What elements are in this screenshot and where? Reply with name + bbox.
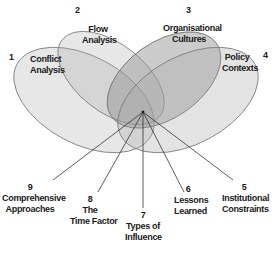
set-label-line: Policy bbox=[222, 52, 252, 63]
set-number-3: 3 bbox=[186, 5, 191, 15]
spoke-label-line: Constraints bbox=[222, 204, 266, 215]
set-number-2: 2 bbox=[75, 5, 80, 15]
spoke-number: 8 bbox=[70, 194, 110, 205]
spoke-label-5: 5 Institutional Constraints bbox=[222, 182, 266, 215]
spoke-label-line: The bbox=[70, 205, 110, 216]
spoke-number: 7 bbox=[125, 210, 161, 221]
spoke-number: 9 bbox=[2, 182, 58, 193]
set-number-4: 4 bbox=[263, 50, 268, 60]
set-label-line: Organisational bbox=[163, 23, 215, 34]
set-label-line: Analysis bbox=[82, 35, 114, 46]
spoke-label-line: Types of bbox=[125, 221, 161, 232]
set-label-line: Flow bbox=[82, 24, 114, 35]
spoke-number: 6 bbox=[174, 184, 202, 195]
spoke-number: 5 bbox=[222, 182, 266, 193]
spoke-label-line: Influence bbox=[125, 232, 161, 243]
spoke-label-line: Time Factor bbox=[70, 216, 110, 227]
spoke-label-6: 6 Lessons Learned bbox=[174, 184, 202, 217]
spoke-label-line: Learned bbox=[174, 206, 202, 217]
set-label-organisational-cultures: Organisational Cultures bbox=[163, 23, 215, 45]
set-label-line: Cultures bbox=[163, 34, 215, 45]
spoke-label-9: 9 Comprehensive Approaches bbox=[2, 182, 58, 215]
spoke-label-7: 7 Types of Influence bbox=[125, 210, 161, 243]
spoke-label-line: Comprehensive bbox=[2, 193, 58, 204]
spoke-label-8: 8 The Time Factor bbox=[70, 194, 110, 227]
spoke-label-line: Approaches bbox=[2, 204, 58, 215]
set-number-1: 1 bbox=[9, 52, 14, 62]
center-point bbox=[142, 111, 145, 114]
spoke-label-line: Lessons bbox=[174, 195, 202, 206]
spoke-label-line: Institutional bbox=[222, 193, 266, 204]
set-label-line: Conflict bbox=[30, 54, 65, 65]
set-label-policy-contexts: Policy Contexts bbox=[222, 52, 252, 74]
set-label-conflict-analysis: Conflict Analysis bbox=[30, 54, 65, 76]
set-label-flow-analysis: Flow Analysis bbox=[82, 24, 114, 46]
set-label-line: Contexts bbox=[222, 63, 252, 74]
set-label-line: Analysis bbox=[30, 65, 65, 76]
